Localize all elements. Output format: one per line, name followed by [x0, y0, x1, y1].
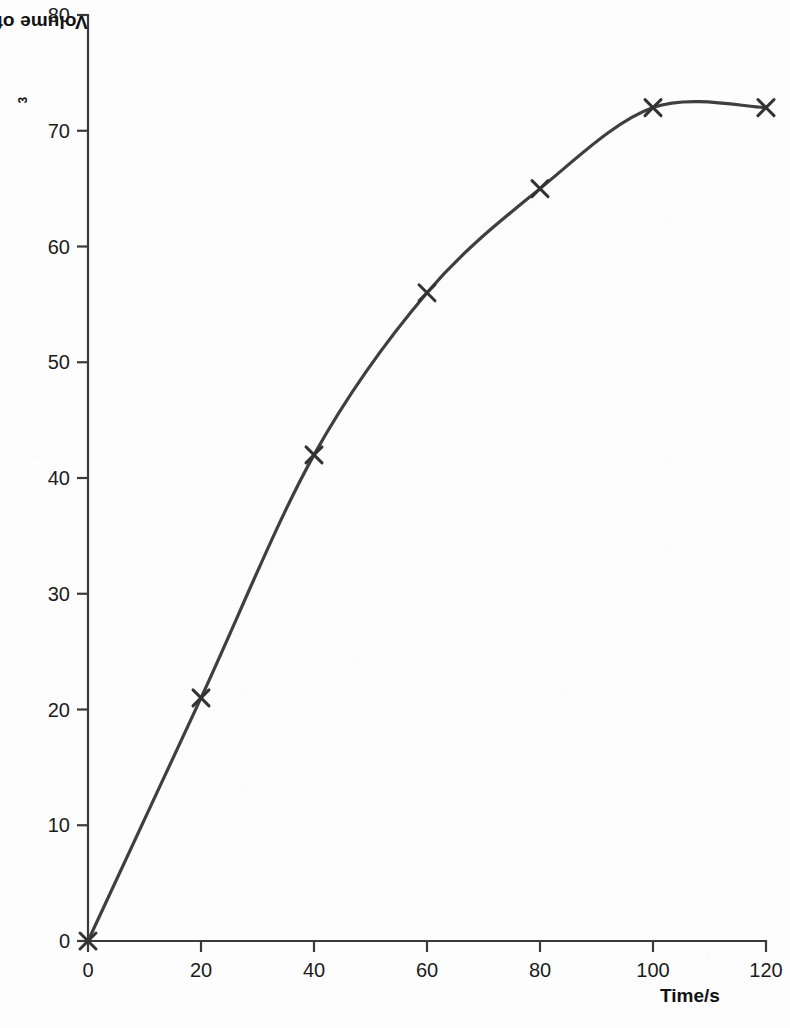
data-markers	[80, 100, 774, 949]
x-tick-label: 0	[82, 959, 93, 981]
y-tick-label: 10	[48, 814, 70, 836]
data-series	[88, 102, 766, 941]
y-tick-label: 60	[48, 236, 70, 258]
y-tick-label: 50	[48, 351, 70, 373]
data-point-marker	[419, 285, 435, 301]
chart-page: Volume of gas/cm3 01020304050607080 0204…	[0, 0, 790, 1028]
data-curve-line	[88, 102, 766, 941]
x-tick-label: 100	[636, 959, 669, 981]
y-tick-label: 30	[48, 583, 70, 605]
y-tick-label: 40	[48, 467, 70, 489]
x-tick-label: 60	[416, 959, 438, 981]
y-tick-label: 20	[48, 699, 70, 721]
x-tick-label: 40	[303, 959, 325, 981]
data-point-marker	[193, 690, 209, 706]
line-chart: 01020304050607080 020406080100120	[0, 0, 790, 1028]
y-axis-ticks: 01020304050607080	[48, 4, 88, 952]
y-tick-label: 0	[59, 930, 70, 952]
x-axis-ticks: 020406080100120	[82, 941, 782, 981]
y-tick-label: 80	[48, 4, 70, 26]
data-point-marker	[532, 181, 548, 197]
data-point-marker	[645, 100, 661, 116]
y-tick-label: 70	[48, 120, 70, 142]
data-point-marker	[306, 447, 322, 463]
x-tick-label: 20	[190, 959, 212, 981]
x-tick-label: 120	[749, 959, 782, 981]
axes	[88, 15, 766, 941]
x-tick-label: 80	[529, 959, 551, 981]
x-axis-title: Time/s	[660, 985, 720, 1007]
